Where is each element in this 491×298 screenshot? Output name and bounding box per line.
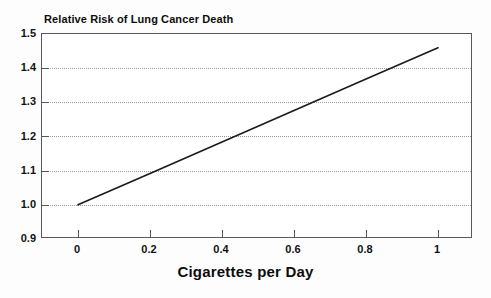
chart-container: Relative Risk of Lung Cancer Death <box>0 0 491 298</box>
ytick-label-1.3: 1.3 <box>3 95 36 107</box>
xtick-label-0.4: 0.4 <box>213 243 228 255</box>
xtick-label-0.6: 0.6 <box>285 243 300 255</box>
xtick-label-0.2: 0.2 <box>141 243 156 255</box>
ytick-label-1.1: 1.1 <box>3 164 36 176</box>
xtick-label-1: 1 <box>434 243 440 255</box>
x-axis-title: Cigarettes per Day <box>0 263 491 280</box>
ytick-label-1.0: 1.0 <box>3 198 36 210</box>
xtick-label-0: 0 <box>74 243 80 255</box>
xtick-label-0.8: 0.8 <box>357 243 372 255</box>
ytick-label-0.9: 0.9 <box>3 232 36 244</box>
ytick-label-1.4: 1.4 <box>3 61 36 73</box>
ytick-label-1.2: 1.2 <box>3 130 36 142</box>
ytick-label-1.5: 1.5 <box>3 27 36 39</box>
